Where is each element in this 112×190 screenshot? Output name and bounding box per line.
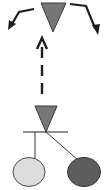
top-triangle xyxy=(41,3,66,32)
right-arrowhead-icon xyxy=(92,24,100,35)
right-ellipse xyxy=(68,158,101,187)
left-ellipse xyxy=(13,158,45,187)
left-arrow xyxy=(8,9,34,30)
lower-triangle xyxy=(35,106,57,132)
dashed-up-arrow xyxy=(37,38,47,94)
right-arrow xyxy=(70,4,100,35)
left-arrowhead-icon xyxy=(8,20,16,30)
right-offspring-line xyxy=(46,132,78,160)
diagram-canvas xyxy=(0,0,112,190)
